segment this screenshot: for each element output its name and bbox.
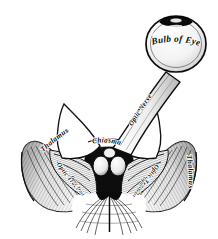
lens-highlight xyxy=(170,18,182,23)
optic-pathway-diagram: Bulb of Eye Optic Nerve Chiasma Thalamus… xyxy=(0,0,218,239)
diagram-canvas: Bulb of Eye Optic Nerve Chiasma Thalamus… xyxy=(0,0,218,239)
